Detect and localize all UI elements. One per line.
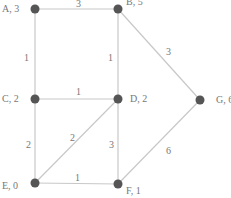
edge-weights-group: 3113122316	[24, 0, 171, 183]
node-c	[31, 95, 40, 104]
node-label-g: G, 6	[216, 94, 231, 105]
node-b	[114, 5, 123, 14]
node-g	[196, 96, 205, 105]
edge-b-g	[118, 9, 200, 100]
edge-weight-e-d: 2	[70, 132, 75, 143]
edge-e-d	[35, 99, 118, 183]
node-d	[114, 95, 123, 104]
edge-weight-a-c: 1	[24, 52, 29, 63]
edge-weight-d-f: 3	[109, 139, 114, 150]
weighted-graph-diagram: 3113122316 A, 3B, 5C, 2D, 2G, 6E, 0F, 1	[0, 0, 231, 198]
edge-weight-c-e: 2	[26, 139, 31, 150]
node-label-e: E, 0	[2, 180, 18, 191]
node-e	[31, 179, 40, 188]
node-label-a: A, 3	[2, 3, 19, 14]
edge-weight-e-f: 1	[75, 172, 80, 183]
node-label-d: D, 2	[130, 93, 147, 104]
edge-weight-c-d: 1	[76, 86, 81, 97]
edge-weight-b-d: 1	[108, 52, 113, 63]
edge-e-f	[35, 183, 118, 184]
node-label-b: B, 5	[126, 0, 143, 7]
node-label-f: F, 1	[126, 185, 141, 196]
node-a	[31, 5, 40, 14]
node-f	[114, 180, 123, 189]
edge-weight-f-g: 6	[166, 145, 171, 156]
edge-weight-a-b: 3	[76, 0, 81, 9]
node-label-c: C, 2	[2, 93, 19, 104]
edge-weight-b-g: 3	[166, 46, 171, 57]
edge-f-g	[118, 100, 200, 184]
